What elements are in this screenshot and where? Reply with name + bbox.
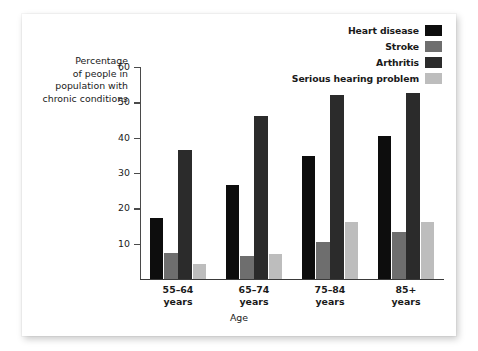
bar-arthritis-75-84-years xyxy=(330,95,344,279)
chart-canvas: Heart disease Stroke Arthritis Serious h… xyxy=(22,14,456,336)
x-axis-group-label-4-line-2: years xyxy=(370,296,442,308)
x-axis-group-label-3: 75–84years xyxy=(294,284,366,308)
figure-card: Heart disease Stroke Arthritis Serious h… xyxy=(22,14,456,336)
x-axis-group-label-4-line-1: 85+ xyxy=(370,284,442,296)
bar-serious-hearing-problem-65-74-years xyxy=(269,254,283,279)
x-axis-group-label-1: 55–64years xyxy=(142,284,214,308)
bar-stroke-85+-years xyxy=(392,232,406,279)
x-axis-title: Age xyxy=(22,312,456,323)
x-axis-group-label-3-line-2: years xyxy=(294,296,366,308)
bar-heart-disease-85+-years xyxy=(378,136,392,279)
x-axis-group-label-1-line-2: years xyxy=(142,296,214,308)
bar-stroke-65-74-years xyxy=(240,256,254,279)
bar-arthritis-65-74-years xyxy=(254,116,268,279)
x-axis-group-label-3-line-1: 75–84 xyxy=(294,284,366,296)
bar-heart-disease-55-64-years xyxy=(150,218,164,279)
bar-stroke-75-84-years xyxy=(316,242,330,279)
x-axis-group-label-2: 65–74years xyxy=(218,284,290,308)
bar-serious-hearing-problem-55-64-years xyxy=(193,264,207,279)
bar-stroke-55-64-years xyxy=(164,253,178,279)
bar-serious-hearing-problem-75-84-years xyxy=(345,222,359,279)
x-axis-group-label-2-line-1: 65–74 xyxy=(218,284,290,296)
bar-heart-disease-65-74-years xyxy=(226,185,240,279)
bar-arthritis-55-64-years xyxy=(178,150,192,279)
bar-heart-disease-75-84-years xyxy=(302,156,316,279)
x-axis-group-label-4: 85+years xyxy=(370,284,442,308)
x-axis-group-label-1-line-1: 55–64 xyxy=(142,284,214,296)
bar-serious-hearing-problem-85+-years xyxy=(421,222,435,279)
bar-arthritis-85+-years xyxy=(406,93,420,279)
x-axis-group-label-2-line-2: years xyxy=(218,296,290,308)
